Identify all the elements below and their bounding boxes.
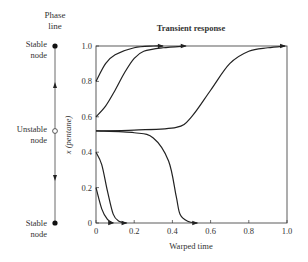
trajectory-curve <box>96 152 127 223</box>
phase-line-title-2: line <box>48 21 62 31</box>
x-tick-label: 0.4 <box>167 226 178 236</box>
x-tick-label: 0.2 <box>129 226 140 236</box>
axis-ticks: 00.20.40.60.81.000.20.40.60.81.0 <box>81 41 292 236</box>
unstable-node-dot <box>53 129 58 134</box>
top-node-label-1: Stable <box>26 39 47 49</box>
trajectory-curve <box>96 46 163 82</box>
arrowhead-icon <box>122 221 128 226</box>
y-axis-label: x (pentane) <box>63 116 73 156</box>
x-tick-label: 0 <box>94 226 98 236</box>
figure: Phase line Stable node Unstable node Sta… <box>0 0 308 262</box>
top-node-label-2: node <box>30 50 47 60</box>
x-tick-label: 0.8 <box>243 226 254 236</box>
arrowhead-icon <box>280 44 286 49</box>
mid-node-label-1: Unstable <box>17 124 47 134</box>
arrowhead-icon <box>108 221 114 226</box>
arrowhead-icon <box>181 44 187 49</box>
x-tick-label: 1.0 <box>282 226 293 236</box>
y-tick-label: 0.8 <box>81 76 92 86</box>
arrow-up-icon <box>53 82 57 88</box>
bottom-node-label-1: Stable <box>26 218 47 228</box>
chart-title: Transient response <box>157 23 226 33</box>
stable-node-top-dot <box>52 43 57 48</box>
bottom-node-label-2: node <box>30 229 47 239</box>
stable-node-bottom-dot <box>52 220 57 225</box>
arrowhead-icon <box>192 221 198 226</box>
arrow-down-icon <box>53 175 57 181</box>
x-tick-label: 0.6 <box>205 226 216 236</box>
trajectories <box>96 44 286 226</box>
y-tick-label: 1.0 <box>81 41 92 51</box>
y-tick-label: 0.4 <box>81 147 92 157</box>
y-tick-label: 0 <box>88 218 92 228</box>
phase-line-title-1: Phase <box>45 10 66 20</box>
mid-node-label-2: node <box>30 135 47 145</box>
trajectory-curve <box>96 46 285 131</box>
x-axis-label: Warped time <box>169 241 213 251</box>
trajectory-curve <box>96 46 186 117</box>
y-tick-label: 0.2 <box>81 183 92 193</box>
y-tick-label: 0.6 <box>81 112 92 122</box>
